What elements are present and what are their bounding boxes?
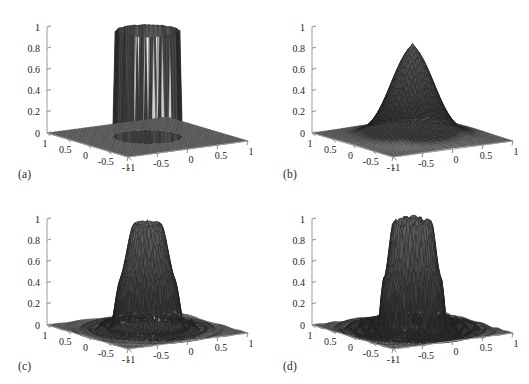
svg-text:1: 1: [308, 138, 313, 149]
svg-text:0: 0: [454, 154, 459, 165]
svg-text:0.2: 0.2: [293, 298, 306, 309]
svg-text:1: 1: [43, 330, 48, 341]
svg-text:0.4: 0.4: [293, 85, 306, 96]
mesh-surface: [312, 44, 513, 157]
mesh-surface: [312, 215, 513, 349]
panel-caption-a: (a): [18, 168, 31, 180]
svg-text:0.2: 0.2: [28, 106, 41, 117]
svg-text:-0.5: -0.5: [153, 158, 169, 169]
figure-four-surface-plots: 00.20.40.60.8110.50-0.5-1-1-0.500.51 (a)…: [0, 0, 529, 384]
svg-text:0: 0: [300, 128, 305, 139]
svg-text:-0.5: -0.5: [98, 156, 114, 167]
svg-text:0.5: 0.5: [215, 342, 228, 353]
svg-text:0.8: 0.8: [28, 43, 41, 54]
svg-text:0.8: 0.8: [293, 43, 306, 54]
svg-text:0.5: 0.5: [324, 336, 337, 347]
svg-text:0.4: 0.4: [28, 85, 41, 96]
svg-text:0.6: 0.6: [293, 64, 306, 75]
svg-text:0.5: 0.5: [215, 150, 228, 161]
svg-text:0.5: 0.5: [480, 342, 493, 353]
panel-caption-b: (b): [283, 168, 297, 180]
surface-plot-d: 00.20.40.60.8110.50-0.5-1-1-0.500.51: [265, 192, 529, 384]
mesh-surface: [47, 220, 248, 349]
panel-b: 00.20.40.60.8110.50-0.5-1-1-0.500.51 (b): [265, 0, 529, 192]
svg-text:-1: -1: [127, 162, 135, 173]
svg-text:-1: -1: [127, 354, 135, 365]
svg-text:0: 0: [348, 342, 353, 353]
svg-text:0: 0: [35, 320, 40, 331]
svg-text:0: 0: [348, 150, 353, 161]
svg-text:1: 1: [249, 338, 254, 349]
svg-text:0.5: 0.5: [59, 336, 72, 347]
panel-a: 00.20.40.60.8110.50-0.5-1-1-0.500.51 (a): [0, 0, 264, 192]
svg-text:0.5: 0.5: [480, 150, 493, 161]
svg-text:0: 0: [189, 346, 194, 357]
svg-text:0.4: 0.4: [293, 277, 306, 288]
svg-text:1: 1: [300, 22, 305, 33]
surface-plot-a: 00.20.40.60.8110.50-0.5-1-1-0.500.51: [0, 0, 264, 192]
svg-text:0.5: 0.5: [59, 144, 72, 155]
svg-text:0.6: 0.6: [293, 256, 306, 267]
svg-text:-0.5: -0.5: [418, 158, 434, 169]
svg-text:-0.5: -0.5: [363, 348, 379, 359]
svg-text:0: 0: [189, 154, 194, 165]
svg-text:0.6: 0.6: [28, 64, 41, 75]
svg-text:-0.5: -0.5: [418, 350, 434, 361]
panel-caption-d: (d): [283, 360, 297, 372]
panel-caption-c: (c): [18, 360, 31, 372]
svg-text:0.4: 0.4: [28, 277, 41, 288]
svg-text:0.6: 0.6: [28, 256, 41, 267]
svg-text:0: 0: [83, 342, 88, 353]
panel-c: 00.20.40.60.8110.50-0.5-1-1-0.500.51 (c): [0, 192, 264, 384]
svg-text:-1: -1: [392, 354, 400, 365]
svg-text:0.2: 0.2: [28, 298, 41, 309]
svg-text:-0.5: -0.5: [153, 350, 169, 361]
svg-text:0.5: 0.5: [324, 144, 337, 155]
svg-text:1: 1: [308, 330, 313, 341]
svg-text:1: 1: [300, 214, 305, 225]
svg-text:0.8: 0.8: [28, 235, 41, 246]
svg-text:1: 1: [35, 22, 40, 33]
mesh-surface: [47, 25, 248, 157]
svg-text:-0.5: -0.5: [363, 156, 379, 167]
svg-text:0.8: 0.8: [293, 235, 306, 246]
panel-d: 00.20.40.60.8110.50-0.5-1-1-0.500.51 (d): [265, 192, 529, 384]
svg-text:0: 0: [83, 150, 88, 161]
svg-text:-1: -1: [392, 162, 400, 173]
surface-plot-c: 00.20.40.60.8110.50-0.5-1-1-0.500.51: [0, 192, 264, 384]
svg-text:1: 1: [249, 146, 254, 157]
svg-text:0: 0: [454, 346, 459, 357]
svg-text:1: 1: [514, 338, 519, 349]
svg-text:0: 0: [35, 128, 40, 139]
svg-text:0: 0: [300, 320, 305, 331]
svg-text:1: 1: [43, 138, 48, 149]
svg-text:1: 1: [514, 146, 519, 157]
svg-text:1: 1: [35, 214, 40, 225]
svg-text:0.2: 0.2: [293, 106, 306, 117]
surface-plot-b: 00.20.40.60.8110.50-0.5-1-1-0.500.51: [265, 0, 529, 192]
svg-text:-0.5: -0.5: [98, 348, 114, 359]
